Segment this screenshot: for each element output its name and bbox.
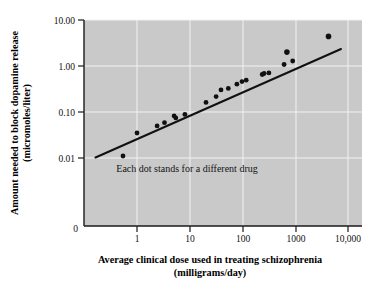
x-axis-title-line2: (milligrams/day) (174, 267, 246, 279)
x-axis-tickmarks (137, 226, 348, 232)
data-point (326, 34, 332, 40)
data-point (162, 120, 167, 125)
scatter-plot-figure: 10.00 1.00 0.10 0.01 0 1 10 100 1000 10,… (0, 0, 378, 286)
data-point (226, 86, 231, 91)
data-point (244, 78, 249, 83)
y-axis-title-line1: Amount needed to block dopamine release (9, 31, 20, 216)
data-point (282, 62, 287, 67)
data-point (267, 71, 272, 76)
data-point (121, 154, 126, 159)
y-axis-title-line2: (micromoles/liter) (21, 84, 33, 162)
y-tick-label-0.10: 0.10 (58, 108, 75, 118)
y-tick-label-zero: 0 (73, 224, 78, 234)
data-point (262, 71, 267, 76)
y-tick-label-0.01: 0.01 (58, 154, 75, 164)
plot-area-background (84, 20, 362, 226)
x-tick-label-100: 100 (236, 234, 251, 244)
y-tick-label-10: 10.00 (54, 16, 76, 26)
x-tick-label-10: 10 (185, 234, 195, 244)
data-point (235, 82, 240, 87)
data-point (173, 116, 178, 121)
x-tick-label-1000: 1000 (287, 234, 306, 244)
data-point (284, 49, 290, 55)
x-tick-label-1: 1 (135, 234, 140, 244)
data-point (219, 88, 224, 93)
y-tick-label-1: 1.00 (58, 62, 75, 72)
y-axis-tickmarks (78, 20, 84, 158)
plot-annotation: Each dot stands for a different drug (116, 163, 257, 174)
data-point (183, 112, 188, 117)
data-point (290, 59, 295, 64)
data-point (214, 94, 219, 99)
data-point (155, 124, 160, 129)
data-point (240, 79, 245, 84)
data-point (135, 131, 140, 136)
x-tick-label-10000: 10,000 (335, 234, 361, 244)
x-axis-title-line1: Average clinical dose used in treating s… (98, 254, 322, 265)
data-point (204, 100, 209, 105)
